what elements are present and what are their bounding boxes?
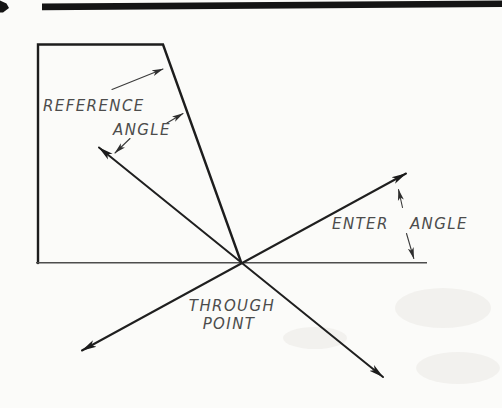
scan-smudge bbox=[416, 352, 500, 384]
enter-angle-lower-arrow bbox=[407, 234, 414, 259]
enter-angle-label: ENTER ANGLE bbox=[332, 215, 468, 233]
through-point-label-line1: THROUGH bbox=[189, 297, 275, 315]
edge-artifact bbox=[0, 1, 9, 13]
reference-leader-arrow bbox=[112, 69, 163, 90]
enter-angle-upper-arrow bbox=[399, 190, 403, 208]
part-outline bbox=[38, 45, 241, 264]
scanned-page: REFERENCE ANGLE ENTER ANGLE THROUGH POIN… bbox=[0, 0, 502, 408]
scan-artifacts bbox=[283, 288, 500, 384]
scan-smudge bbox=[283, 327, 347, 349]
through-point-label-line2: POINT bbox=[203, 315, 256, 333]
angle-leader-to-line-arrow bbox=[115, 139, 130, 154]
top-rule bbox=[42, 0, 502, 10]
reference-label: REFERENCE bbox=[43, 97, 145, 115]
drafting-diagram: REFERENCE ANGLE ENTER ANGLE THROUGH POIN… bbox=[0, 0, 502, 408]
scan-smudge bbox=[395, 288, 491, 328]
reference-angle-label: ANGLE bbox=[112, 121, 171, 139]
